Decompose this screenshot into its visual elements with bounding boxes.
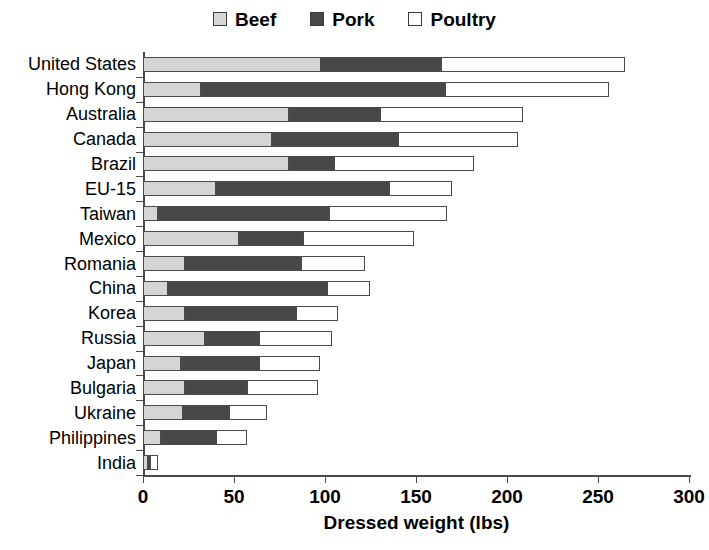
bar-segment-poultry: [329, 206, 447, 221]
y-axis-tick: [136, 475, 143, 476]
bar-segment-pork: [158, 206, 329, 221]
bar-segment-pork: [181, 356, 259, 371]
y-axis-label-bulgaria: Bulgaria: [0, 379, 136, 397]
bar-segment-poultry: [445, 82, 609, 97]
y-axis-label-russia: Russia: [0, 329, 136, 347]
bar-row: [143, 132, 690, 147]
bar-row: [143, 356, 690, 371]
bar-segment-pork: [216, 181, 389, 196]
x-axis-line: [143, 475, 691, 477]
x-axis-tick: [234, 475, 235, 483]
y-axis-label-brazil: Brazil: [0, 155, 136, 173]
plot-area: 050100150200250300: [143, 52, 690, 475]
stacked-bar-chart: Beef Pork Poultry United StatesHong Kong…: [0, 0, 709, 550]
bar-segment-poultry: [389, 181, 453, 196]
x-axis-tick: [689, 475, 690, 483]
y-axis-tick: [136, 276, 143, 277]
x-axis-tick-label: 150: [400, 486, 432, 508]
x-axis-tick: [598, 475, 599, 483]
y-axis-tick: [136, 251, 143, 252]
chart-legend: Beef Pork Poultry: [0, 4, 709, 34]
bar-segment-beef: [143, 57, 321, 72]
y-axis-label-eu-15: EU-15: [0, 180, 136, 198]
bar-segment-beef: [143, 181, 216, 196]
y-axis-label-canada: Canada: [0, 130, 136, 148]
legend-label-poultry: Poultry: [430, 10, 495, 29]
legend-swatch-poultry: [408, 12, 422, 26]
y-axis-tick: [136, 127, 143, 128]
bar-row: [143, 380, 690, 395]
bar-segment-poultry: [301, 256, 365, 271]
bar-row: [143, 57, 690, 72]
x-axis-tick: [416, 475, 417, 483]
bar-segment-beef: [143, 281, 168, 296]
y-axis-tick: [136, 152, 143, 153]
bar-segment-pork: [272, 132, 398, 147]
bar-segment-poultry: [259, 356, 319, 371]
y-axis-tick: [136, 375, 143, 376]
bar-row: [143, 306, 690, 321]
legend-item-poultry: Poultry: [408, 10, 495, 29]
bar-segment-pork: [205, 331, 260, 346]
x-axis-tick-label: 50: [223, 486, 244, 508]
bar-segment-poultry: [259, 331, 332, 346]
x-axis-tick-label: 250: [582, 486, 614, 508]
legend-swatch-pork: [310, 12, 324, 26]
y-axis-label-taiwan: Taiwan: [0, 205, 136, 223]
y-axis-label-china: China: [0, 279, 136, 297]
y-axis-tick: [136, 351, 143, 352]
legend-item-pork: Pork: [310, 10, 374, 29]
bar-segment-pork: [161, 430, 216, 445]
bar-row: [143, 82, 690, 97]
bar-row: [143, 181, 690, 196]
bar-segment-pork: [321, 57, 441, 72]
bar-segment-pork: [289, 107, 380, 122]
x-axis-tick-label: 100: [309, 486, 341, 508]
y-axis-tick: [136, 326, 143, 327]
bar-segment-poultry: [441, 57, 625, 72]
x-axis-tick: [325, 475, 326, 483]
legend-swatch-beef: [213, 12, 227, 26]
y-axis-label-romania: Romania: [0, 255, 136, 273]
x-axis-tick-label: 300: [673, 486, 705, 508]
bar-segment-beef: [143, 256, 185, 271]
bar-segment-pork: [183, 405, 229, 420]
y-axis-label-hong-kong: Hong Kong: [0, 80, 136, 98]
x-axis-tick: [143, 475, 144, 483]
bar-row: [143, 430, 690, 445]
bar-segment-pork: [185, 306, 296, 321]
bar-segment-beef: [143, 356, 181, 371]
y-axis-label-india: India: [0, 454, 136, 472]
y-axis-label-united-states: United States: [0, 55, 136, 73]
x-axis-tick: [507, 475, 508, 483]
y-axis-label-mexico: Mexico: [0, 230, 136, 248]
y-axis-tick: [136, 77, 143, 78]
bar-row: [143, 455, 690, 470]
bar-segment-beef: [143, 405, 183, 420]
bar-row: [143, 231, 690, 246]
bar-segment-beef: [143, 430, 161, 445]
bar-row: [143, 206, 690, 221]
bar-segment-beef: [143, 206, 158, 221]
bar-segment-poultry: [380, 107, 524, 122]
y-axis-tick: [136, 201, 143, 202]
y-axis-label-australia: Australia: [0, 105, 136, 123]
bar-segment-poultry: [247, 380, 318, 395]
y-axis-label-ukraine: Ukraine: [0, 404, 136, 422]
y-axis-category-labels: United StatesHong KongAustraliaCanadaBra…: [0, 52, 136, 475]
y-axis-tick: [136, 400, 143, 401]
bar-segment-beef: [143, 107, 289, 122]
bar-segment-pork: [289, 156, 335, 171]
bar-row: [143, 156, 690, 171]
bar-segment-beef: [143, 306, 185, 321]
bar-segment-poultry: [150, 455, 157, 470]
bar-row: [143, 256, 690, 271]
y-axis-tick: [136, 102, 143, 103]
bar-segment-poultry: [303, 231, 414, 246]
bar-segment-poultry: [216, 430, 247, 445]
x-axis-title: Dressed weight (lbs): [143, 512, 690, 534]
bar-segment-beef: [143, 231, 239, 246]
bar-segment-beef: [143, 380, 185, 395]
y-axis-tick: [136, 226, 143, 227]
bar-row: [143, 331, 690, 346]
